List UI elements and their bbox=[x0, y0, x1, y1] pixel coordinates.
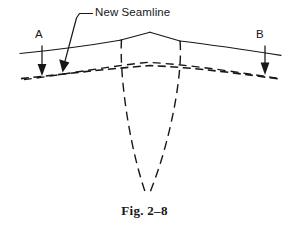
figure-container: New Seamline A B Fig. 2–8 bbox=[0, 0, 289, 229]
upper-surface-line-group bbox=[20, 32, 281, 55]
depth-arrow-b-head-icon bbox=[261, 63, 270, 76]
upper-surface-crest-left-segment bbox=[120, 32, 150, 40]
figure-caption: Fig. 2–8 bbox=[0, 204, 289, 217]
dashed-boundary-right-line bbox=[149, 41, 181, 196]
new-seamline-leader-group bbox=[59, 14, 92, 73]
subsurface-dashed-beds-group bbox=[21, 62, 282, 79]
new-seamline-leader-line bbox=[65, 14, 93, 64]
depth-arrow-a-group bbox=[38, 46, 47, 77]
depth-arrow-a-head-icon bbox=[38, 64, 47, 76]
seam-boundary-dashed-group bbox=[121, 40, 180, 197]
new-seamline-arrow-head-icon bbox=[59, 59, 69, 72]
point-b-label: B bbox=[256, 29, 264, 41]
point-a-label: A bbox=[35, 29, 43, 41]
upper-surface-right-segment bbox=[180, 41, 281, 55]
figure-drawing bbox=[0, 0, 289, 229]
lower-dashed-bed-line bbox=[21, 66, 282, 80]
upper-surface-crest-right-segment bbox=[150, 32, 180, 41]
depth-arrow-b-group bbox=[261, 46, 270, 76]
new-seamline-label: New Seamline bbox=[95, 7, 170, 19]
